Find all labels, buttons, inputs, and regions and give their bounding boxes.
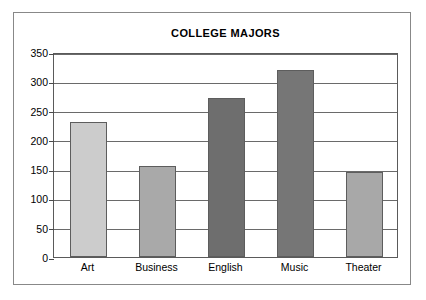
y-axis-tick-label: 150	[30, 164, 48, 176]
y-axis-tick-label: 200	[30, 135, 48, 147]
y-axis-tick-label: 350	[30, 47, 48, 59]
x-axis-tick-labels: ArtBusinessEnglishMusicTheater	[53, 261, 398, 279]
bar-business	[139, 166, 176, 257]
bar-english	[208, 98, 245, 257]
y-axis-tick-label: 250	[30, 106, 48, 118]
y-axis-tick-label: 50	[36, 223, 48, 235]
chart-figure: COLLEGE MAJORS 050100150200250300350 Art…	[0, 0, 426, 300]
chart-title: COLLEGE MAJORS	[53, 27, 398, 39]
x-axis-tick-label: Business	[135, 261, 178, 273]
x-axis-tick-label: Music	[281, 261, 308, 273]
y-axis-tick-mark	[49, 259, 54, 260]
x-axis-tick-label: English	[208, 261, 242, 273]
bars-group	[54, 54, 397, 257]
x-axis-tick-label: Theater	[345, 261, 381, 273]
bar-art	[70, 122, 107, 257]
y-axis-tick-label: 0	[42, 252, 48, 264]
y-axis-tick-labels: 050100150200250300350	[18, 53, 48, 258]
bar-theater	[346, 172, 383, 258]
bar-music	[277, 70, 314, 257]
y-axis-tick-label: 300	[30, 76, 48, 88]
x-axis-tick-label: Art	[81, 261, 94, 273]
y-axis-tick-label: 100	[30, 193, 48, 205]
plot-area	[53, 53, 398, 258]
